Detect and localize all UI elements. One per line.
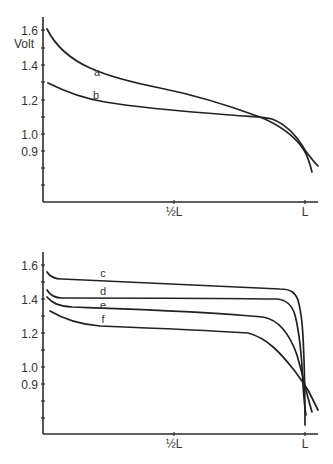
curve-c xyxy=(47,272,305,425)
top-ytick-0.9: 0.9 xyxy=(21,145,38,159)
top-chart: 1.6 Volt 1.4 1.2 1.0 0.9 ½L L a b xyxy=(14,17,318,219)
bottom-ytick-0.9: 0.9 xyxy=(21,378,38,392)
top-ytick-1.0: 1.0 xyxy=(21,128,38,142)
top-ytick-1.4: 1.4 xyxy=(21,59,38,73)
bottom-ytick-1.4: 1.4 xyxy=(21,293,38,307)
curve-a xyxy=(47,29,312,172)
label-a: a xyxy=(94,66,101,78)
bottom-chart: 1.6 1.4 1.2 1.0 0.9 ½L L c d e f xyxy=(21,252,318,451)
curve-f xyxy=(50,311,318,410)
label-d: d xyxy=(100,285,106,297)
label-b: b xyxy=(93,89,99,101)
top-xtick-l: L xyxy=(302,205,309,219)
bottom-xtick-l: L xyxy=(302,437,309,451)
bottom-ytick-1.6: 1.6 xyxy=(21,259,38,273)
top-ytick-1.2: 1.2 xyxy=(21,94,38,108)
top-y-axis-label: Volt xyxy=(14,37,35,51)
discharge-curves-figure: 1.6 Volt 1.4 1.2 1.0 0.9 ½L L a b xyxy=(0,0,333,464)
top-ytick-1.6: 1.6 xyxy=(21,24,38,38)
bottom-xtick-half-l: ½L xyxy=(166,437,183,451)
bottom-ytick-1.0: 1.0 xyxy=(21,361,38,375)
curve-d xyxy=(47,290,306,415)
label-f: f xyxy=(101,313,105,325)
curve-e xyxy=(47,297,312,412)
label-c: c xyxy=(100,267,106,279)
curve-b xyxy=(48,83,318,166)
bottom-ytick-1.2: 1.2 xyxy=(21,327,38,341)
label-e: e xyxy=(100,299,106,311)
top-xtick-half-l: ½L xyxy=(166,205,183,219)
